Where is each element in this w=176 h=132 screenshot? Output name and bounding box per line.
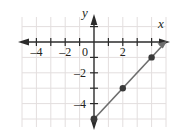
x-axis-label: x <box>157 16 164 31</box>
data-point <box>148 54 154 60</box>
plotted-line-series <box>91 41 167 122</box>
y-axis-label: y <box>80 5 88 20</box>
graph-canvas: –4 –2 2 –2 –4 0 x y <box>0 0 176 132</box>
x-tick-label-2: 2 <box>120 45 126 59</box>
coordinate-plane-figure: –4 –2 2 –2 –4 0 x y <box>0 0 176 132</box>
axes <box>18 14 170 130</box>
x-axis-left-arrowhead-icon <box>18 38 29 45</box>
data-point <box>91 116 98 123</box>
y-tick-label-neg2: –2 <box>73 66 86 80</box>
x-tick-label-neg4: –4 <box>29 45 42 59</box>
origin-label: 0 <box>82 45 88 59</box>
data-point <box>120 85 126 91</box>
x-tick-label-neg2: –2 <box>58 45 71 59</box>
y-tick-label-neg4: –4 <box>73 97 86 111</box>
y-axis-top-arrowhead-icon <box>91 14 98 25</box>
